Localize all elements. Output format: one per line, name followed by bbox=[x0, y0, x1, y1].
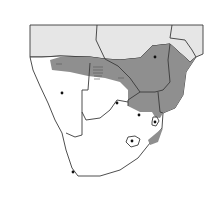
point-swaziland bbox=[154, 121, 157, 124]
point-cape bbox=[72, 171, 75, 174]
point-gauteng bbox=[138, 114, 141, 117]
distribution-map bbox=[0, 0, 222, 202]
point-namibia bbox=[61, 92, 64, 95]
point-zimbabwe bbox=[154, 56, 157, 59]
point-lesotho bbox=[131, 140, 134, 143]
point-botswana bbox=[116, 102, 119, 105]
